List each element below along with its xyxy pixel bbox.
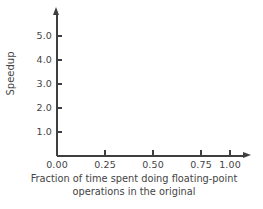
x-axis-tick — [104, 150, 106, 156]
x-axis-tick-label-text: 0.50 — [133, 159, 173, 170]
x-axis-arrow-icon — [243, 152, 251, 158]
y-axis-tick-label-text: 1.0 — [24, 126, 52, 137]
x-axis-title-line-2: operations in the original — [18, 186, 250, 199]
x-axis-tick — [56, 150, 58, 156]
y-axis-tick-label-text: 2.0 — [24, 102, 52, 113]
y-axis-tick — [57, 131, 62, 133]
y-axis-tick-label: 3.0 — [20, 78, 52, 90]
y-axis-tick-label: 1.0 — [20, 126, 52, 138]
y-axis-tick — [57, 83, 62, 85]
y-axis-tick-label: 2.0 — [20, 102, 52, 114]
x-axis-title-line-1: Fraction of time spent doing floating-po… — [18, 173, 250, 186]
x-axis-tick-label-text: 0.00 — [37, 159, 77, 170]
y-axis-arrow-icon — [53, 7, 59, 15]
x-axis-tick — [200, 150, 202, 156]
y-axis-tick-label-text: 4.0 — [24, 54, 52, 65]
y-axis-tick — [57, 59, 62, 61]
plot-area — [58, 14, 244, 155]
x-axis-tick-label: 0.50 — [133, 159, 173, 172]
x-axis-title: Fraction of time spent doing floating-po… — [18, 173, 250, 198]
chart-figure: 1.0 2.0 3.0 4.0 5.0 0.00 0.25 0.50 0.75 … — [0, 0, 263, 209]
y-axis-title: Speedup — [5, 44, 16, 104]
y-axis-tick — [57, 107, 62, 109]
y-axis-tick-label-text: 5.0 — [24, 30, 52, 41]
y-axis-tick-label-text: 3.0 — [24, 78, 52, 89]
x-axis-tick-label-text: 1.00 — [210, 159, 250, 170]
x-axis-tick — [152, 150, 154, 156]
x-axis-line — [57, 155, 244, 157]
x-axis-tick — [229, 150, 231, 156]
x-axis-tick-label: 0.25 — [85, 159, 125, 172]
x-axis-tick-label-text: 0.25 — [85, 159, 125, 170]
x-axis-tick-label: 1.00 — [210, 159, 250, 172]
x-axis-tick-label: 0.00 — [37, 159, 77, 172]
y-axis-tick-label: 5.0 — [20, 30, 52, 42]
y-axis-tick-label: 4.0 — [20, 54, 52, 66]
y-axis-tick — [57, 35, 62, 37]
